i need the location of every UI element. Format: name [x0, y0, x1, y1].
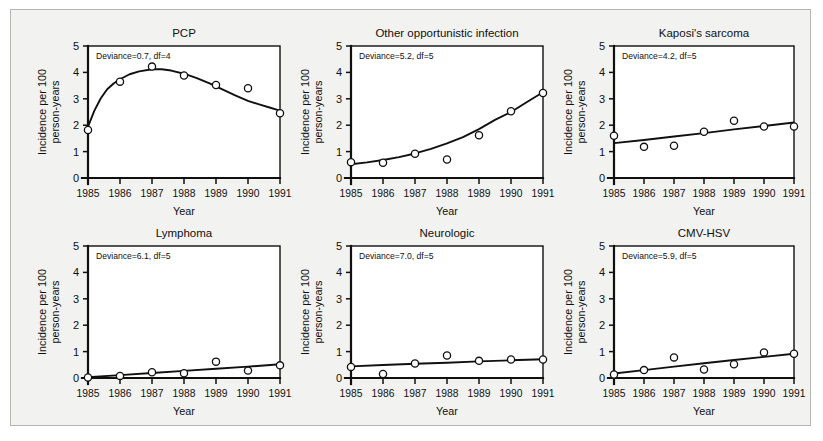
x-tick-label: 1987	[404, 388, 427, 399]
deviance-annotation: Deviance=4.2, df=5	[622, 51, 697, 61]
y-axis-title-line-2: person-years	[575, 80, 587, 144]
y-tick-label: 1	[336, 346, 342, 358]
y-tick-label: 1	[336, 146, 342, 158]
x-tick-label: 1990	[753, 388, 776, 399]
panel-title: Lymphoma	[156, 227, 213, 239]
x-tick-label: 1990	[500, 388, 523, 399]
x-axis-title: Year	[436, 205, 458, 217]
x-tick-label: 1988	[436, 188, 459, 199]
data-point-marker	[507, 108, 514, 115]
x-axis-title: Year	[693, 405, 715, 417]
data-point-marker	[475, 357, 482, 364]
x-tick-label: 1990	[753, 188, 776, 199]
y-tick-label: 3	[73, 93, 79, 105]
y-tick-label: 1	[73, 146, 79, 158]
panel-title: CMV-HSV	[678, 227, 731, 239]
plot-area	[88, 46, 280, 178]
y-axis-title-line-2: person-years	[312, 280, 324, 344]
x-tick-label: 1991	[532, 188, 555, 199]
y-axis-title-line-1: Incidence per 100	[36, 269, 48, 355]
data-point-marker	[507, 356, 514, 363]
y-tick-label: 1	[599, 146, 605, 158]
data-point-marker	[610, 371, 617, 378]
data-point-marker	[670, 142, 677, 149]
data-point-marker	[180, 72, 187, 79]
chart-panel-lymphoma: Lymphoma01234519851986198719881989199019…	[31, 218, 298, 426]
x-tick-label: 1991	[783, 188, 806, 199]
y-tick-label: 5	[73, 240, 79, 252]
x-tick-label: 1988	[173, 188, 196, 199]
x-axis-title: Year	[173, 405, 195, 417]
y-tick-label: 2	[73, 119, 79, 131]
y-tick-label: 5	[599, 40, 605, 52]
panel-title: Kaposi's sarcoma	[659, 27, 750, 39]
data-point-marker	[411, 360, 418, 367]
data-point-marker	[116, 78, 123, 85]
panel-title: Neurologic	[420, 227, 475, 239]
x-tick-label: 1989	[723, 388, 746, 399]
x-tick-label: 1989	[205, 188, 228, 199]
data-point-marker	[411, 150, 418, 157]
x-axis-title: Year	[173, 205, 195, 217]
y-tick-label: 4	[336, 266, 342, 278]
data-point-marker	[539, 356, 546, 363]
deviance-annotation: Deviance=0.7, df=4	[96, 51, 171, 61]
x-tick-label: 1987	[663, 388, 686, 399]
y-tick-label: 0	[336, 172, 342, 184]
x-tick-label: 1991	[269, 188, 292, 199]
y-tick-label: 3	[599, 293, 605, 305]
y-tick-label: 4	[73, 266, 79, 278]
y-axis-title-line-2: person-years	[49, 80, 61, 144]
y-tick-label: 3	[599, 93, 605, 105]
x-tick-label: 1991	[783, 388, 806, 399]
x-tick-label: 1988	[693, 188, 716, 199]
x-tick-label: 1985	[340, 388, 363, 399]
y-tick-label: 0	[73, 172, 79, 184]
y-tick-label: 5	[73, 40, 79, 52]
y-tick-label: 2	[336, 319, 342, 331]
data-point-marker	[730, 117, 737, 124]
data-point-marker	[475, 132, 482, 139]
x-tick-label: 1987	[141, 388, 164, 399]
chart-panel-neurologic: Neurologic012345198519861987198819891990…	[294, 218, 561, 426]
chart-panel-kaposi-s-sarcoma: Kaposi's sarcoma012345198519861987198819…	[557, 18, 812, 226]
data-point-marker	[379, 370, 386, 377]
chart-panel-pcp: PCP0123451985198619871988198919901991Yea…	[31, 18, 298, 226]
data-point-marker	[84, 374, 91, 381]
data-point-marker	[212, 81, 219, 88]
y-tick-label: 1	[73, 346, 79, 358]
data-point-marker	[180, 370, 187, 377]
x-tick-label: 1988	[436, 388, 459, 399]
data-point-marker	[610, 132, 617, 139]
data-point-marker	[276, 110, 283, 117]
y-axis-title-line-1: Incidence per 100	[36, 69, 48, 155]
deviance-annotation: Deviance=5.9, df=5	[622, 251, 697, 261]
plot-area	[614, 246, 794, 378]
y-tick-label: 5	[336, 240, 342, 252]
x-tick-label: 1986	[633, 388, 656, 399]
chart-panel-other-opportunistic-infection: Other opportunistic infection01234519851…	[294, 18, 561, 226]
data-point-marker	[670, 354, 677, 361]
data-point-marker	[539, 89, 546, 96]
x-axis-title: Year	[436, 405, 458, 417]
small-multiples-panel-grid: PCP0123451985198619871988198919901991Yea…	[11, 10, 812, 427]
data-point-marker	[148, 63, 155, 70]
x-tick-label: 1989	[468, 188, 491, 199]
y-tick-label: 2	[599, 319, 605, 331]
y-axis-title-line-1: Incidence per 100	[562, 69, 574, 155]
data-point-marker	[276, 362, 283, 369]
y-tick-label: 4	[336, 66, 342, 78]
panel-title: Other opportunistic infection	[375, 27, 518, 39]
y-tick-label: 3	[336, 293, 342, 305]
deviance-annotation: Deviance=5.2, df=5	[359, 51, 434, 61]
x-tick-label: 1986	[633, 188, 656, 199]
y-tick-label: 0	[599, 372, 605, 384]
y-tick-label: 0	[336, 372, 342, 384]
x-tick-label: 1989	[205, 388, 228, 399]
y-tick-label: 4	[73, 66, 79, 78]
y-axis-title-line-2: person-years	[575, 280, 587, 344]
panel-title: PCP	[172, 27, 196, 39]
x-tick-label: 1985	[77, 188, 100, 199]
data-point-marker	[700, 366, 707, 373]
plot-area	[88, 246, 280, 378]
